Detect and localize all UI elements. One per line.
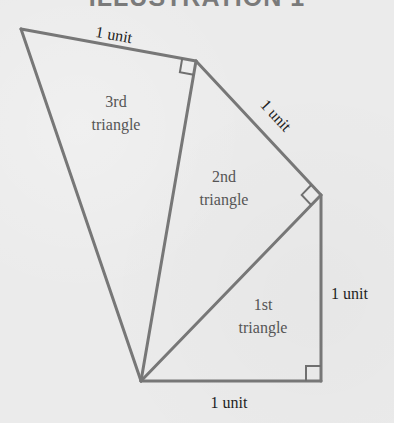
right-angle-marker-2nd: [302, 185, 312, 205]
label-3rd-word: triangle: [92, 116, 141, 134]
label-diagonal-unit: 1 unit: [257, 96, 295, 135]
label-3rd-ordinal: 3rd: [105, 93, 126, 110]
diagram-canvas: ILLUSTRATION 1 1 unit 1 unit 1 unit 1 un…: [0, 0, 394, 423]
label-bottom-unit: 1 unit: [211, 394, 248, 411]
label-1st-ordinal: 1st: [254, 296, 273, 313]
edge-origin-to-d: [21, 29, 141, 381]
label-2nd-ordinal: 2nd: [212, 168, 236, 185]
label-2nd-word: triangle: [200, 191, 249, 209]
label-1st-word: triangle: [239, 319, 288, 337]
right-angle-marker-1st: [306, 366, 321, 381]
triangle-spiral-diagram: 1 unit 1 unit 1 unit 1 unit 3rd triangle…: [0, 0, 394, 423]
label-right-unit: 1 unit: [331, 285, 368, 302]
